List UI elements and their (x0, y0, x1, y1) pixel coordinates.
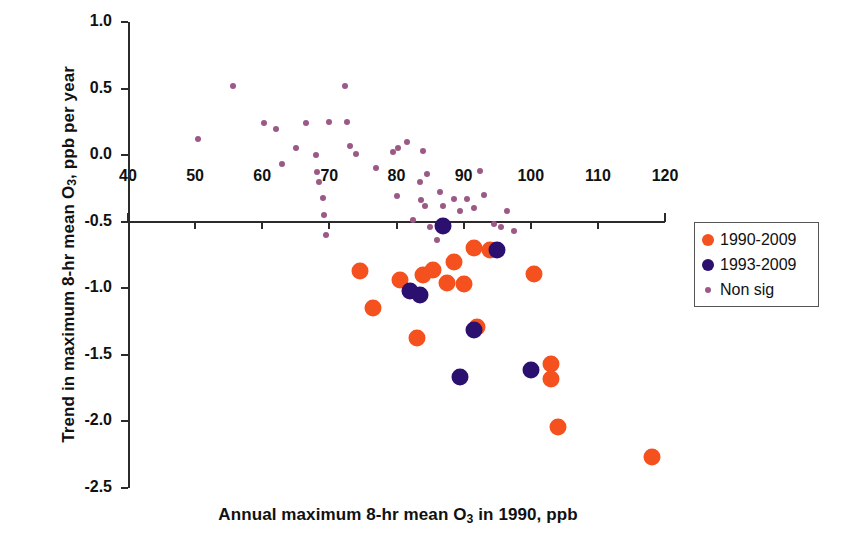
data-point-nonsig (404, 139, 410, 145)
data-point-nonsig (440, 203, 446, 209)
x-axis-tick (261, 221, 263, 229)
legend-item-label: Non sig (720, 281, 774, 299)
data-point-nonsig (342, 83, 348, 89)
data-point-sig90 (465, 240, 482, 257)
y-axis-tick (121, 487, 128, 489)
x-axis-title-prefix: Annual maximum 8-hr mean O (218, 505, 466, 524)
x-axis-tick (530, 221, 532, 229)
y-axis-tick (121, 354, 128, 356)
data-point-nonsig (457, 208, 463, 214)
x-axis-tick (194, 221, 196, 229)
data-point-nonsig (504, 208, 510, 214)
data-point-nonsig (410, 217, 416, 223)
data-point-nonsig (477, 168, 483, 174)
legend-marker-icon (699, 259, 717, 271)
y-axis-tick-label: 0.0 (40, 145, 112, 163)
legend-swatch-sig93 (702, 259, 714, 271)
data-point-nonsig (316, 179, 322, 185)
data-point-nonsig (427, 224, 433, 230)
data-point-nonsig (293, 145, 299, 151)
data-point-nonsig (273, 126, 279, 132)
data-point-sig93 (435, 217, 452, 234)
data-point-nonsig (437, 189, 443, 195)
x-axis-tick (597, 221, 599, 229)
data-point-sig93 (489, 241, 506, 258)
legend-marker-icon (699, 234, 717, 246)
x-axis-tick (396, 221, 398, 229)
data-point-nonsig (451, 196, 457, 202)
data-point-nonsig (498, 224, 504, 230)
legend-item[interactable]: 1993-2009 (699, 252, 813, 277)
legend-marker-icon (699, 287, 717, 293)
y-axis-title-subscript: 3 (65, 179, 79, 186)
y-axis-tick-label: 1.0 (40, 12, 112, 30)
data-point-nonsig (373, 165, 379, 171)
data-point-nonsig (481, 192, 487, 198)
legend-item[interactable]: Non sig (699, 277, 813, 302)
data-point-nonsig (471, 205, 477, 211)
data-point-nonsig (434, 237, 440, 243)
data-point-sig90 (445, 253, 462, 270)
data-point-nonsig (511, 228, 517, 234)
y-axis-spine (128, 22, 130, 488)
data-point-nonsig (422, 203, 428, 209)
data-point-sig90 (643, 449, 660, 466)
y-axis-tick (121, 154, 128, 156)
data-point-nonsig (491, 221, 497, 227)
data-point-nonsig (303, 120, 309, 126)
data-point-sig93 (522, 361, 539, 378)
y-axis-tick-label: -2.5 (40, 478, 112, 496)
x-axis-title-suffix: in 1990, ppb (473, 505, 577, 524)
data-point-nonsig (395, 145, 401, 151)
x-axis-title: Annual maximum 8-hr mean O3 in 1990, ppb (128, 505, 668, 526)
y-axis-tick (121, 287, 128, 289)
data-point-sig90 (365, 300, 382, 317)
data-point-nonsig (417, 179, 423, 185)
data-point-sig90 (455, 276, 472, 293)
data-point-sig93 (411, 286, 428, 303)
chart-legend: 1990-20091993-2009Non sig (694, 222, 819, 307)
data-point-nonsig (394, 193, 400, 199)
data-point-sig90 (526, 265, 543, 282)
data-point-nonsig (420, 148, 426, 154)
y-axis-tick-label: -1.0 (40, 278, 112, 296)
y-axis-tick-label: 0.5 (40, 79, 112, 97)
x-axis-tick (664, 213, 666, 222)
y-axis-tick-label: -1.5 (40, 345, 112, 363)
legend-item-label: 1990-2009 (720, 231, 797, 249)
data-point-nonsig (314, 169, 320, 175)
data-point-sig90 (351, 262, 368, 279)
data-point-sig90 (438, 274, 455, 291)
y-axis-tick (121, 21, 128, 23)
data-point-nonsig (326, 119, 332, 125)
plot-area (128, 22, 665, 488)
legend-item[interactable]: 1990-2009 (699, 227, 813, 252)
data-point-nonsig (347, 143, 353, 149)
data-point-nonsig (279, 161, 285, 167)
data-point-nonsig (323, 232, 329, 238)
x-axis-tick (328, 221, 330, 229)
x-axis-tick (463, 221, 465, 229)
data-point-sig90 (542, 370, 559, 387)
legend-item-label: 1993-2009 (720, 256, 797, 274)
data-point-nonsig (261, 120, 267, 126)
data-point-sig93 (452, 369, 469, 386)
data-point-nonsig (353, 151, 359, 157)
legend-swatch-sig90 (702, 234, 714, 246)
data-point-sig90 (549, 418, 566, 435)
y-axis-tick-label: -0.5 (40, 212, 112, 230)
y-axis-tick (121, 88, 128, 90)
data-point-nonsig (195, 136, 201, 142)
data-point-sig93 (465, 321, 482, 338)
data-point-nonsig (321, 212, 327, 218)
data-point-nonsig (464, 196, 470, 202)
data-point-nonsig (230, 83, 236, 89)
data-point-nonsig (320, 195, 326, 201)
y-axis-tick-label: -2.0 (40, 411, 112, 429)
data-point-nonsig (313, 152, 319, 158)
scatter-chart-figure: Trend in maximum 8-hr mean O3, ppb per y… (0, 0, 868, 553)
legend-swatch-nonsig (705, 287, 711, 293)
data-point-sig90 (425, 261, 442, 278)
y-axis-tick (121, 420, 128, 422)
data-point-nonsig (424, 171, 430, 177)
